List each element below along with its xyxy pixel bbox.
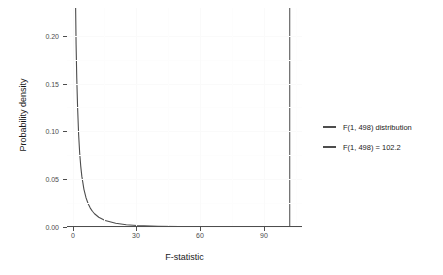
y-tick-0.15 xyxy=(63,84,67,85)
legend-item-distribution: F(1, 498) distribution xyxy=(322,117,442,137)
gridline-y-0.15 xyxy=(67,84,302,85)
x-tick-label-60: 60 xyxy=(185,231,215,240)
y-tick-label-0.10: 0.10 xyxy=(24,127,59,136)
gridline-x-60 xyxy=(200,8,201,227)
y-tick-label-0.15: 0.15 xyxy=(24,80,59,89)
y-tick-label-0.05: 0.05 xyxy=(24,175,59,184)
y-tick-0.10 xyxy=(63,131,67,132)
gridline-x-minor-45 xyxy=(168,8,169,227)
y-axis-title: Probability density xyxy=(18,35,28,195)
y-tick-label-0.00: 0.00 xyxy=(24,223,59,232)
gridline-x-minor-105 xyxy=(296,8,297,227)
y-tick-0.05 xyxy=(63,179,67,180)
gridline-x-30 xyxy=(136,8,137,227)
gridline-y-0.00 xyxy=(67,227,302,228)
x-tick-label-90: 90 xyxy=(249,231,279,240)
gridline-y-minor-0.025 xyxy=(67,203,302,204)
x-axis-line xyxy=(67,226,302,227)
y-tick-0.20 xyxy=(63,36,67,37)
gridline-x-minor-15 xyxy=(104,8,105,227)
y-tick-0.00 xyxy=(63,227,67,228)
x-tick-label-0: 0 xyxy=(58,231,88,240)
chart-figure: 0 30 60 90 0.20 0.15 0.10 0.05 0.00 F-st… xyxy=(0,0,443,275)
gridline-y-minor-0.075 xyxy=(67,155,302,156)
legend-item-observed: F(1, 498) = 102.2 xyxy=(322,137,442,157)
legend-label-distribution: F(1, 498) distribution xyxy=(343,123,412,132)
legend-line-icon-distribution xyxy=(322,117,337,137)
legend: F(1, 498) distribution F(1, 498) = 102.2 xyxy=(322,117,442,157)
gridline-y-minor-0.175 xyxy=(67,60,302,61)
x-tick-label-30: 30 xyxy=(121,231,151,240)
legend-label-observed: F(1, 498) = 102.2 xyxy=(343,143,401,152)
plot-panel xyxy=(67,8,302,227)
x-axis-title: F-statistic xyxy=(67,252,302,262)
gridline-x-0 xyxy=(73,8,74,227)
y-tick-label-0.20: 0.20 xyxy=(24,32,59,41)
gridline-y-0.05 xyxy=(67,179,302,180)
gridline-y-0.20 xyxy=(67,36,302,37)
legend-line-icon-observed xyxy=(322,137,337,157)
gridline-y-minor-0.125 xyxy=(67,107,302,108)
data-layer xyxy=(67,8,302,227)
gridline-y-0.10 xyxy=(67,131,302,132)
gridline-x-90 xyxy=(264,8,265,227)
gridline-x-minor-75 xyxy=(232,8,233,227)
density-curve xyxy=(74,8,296,227)
